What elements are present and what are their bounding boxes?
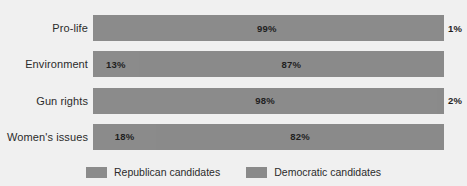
bar-segment-democratic[interactable]: 82% <box>156 124 444 150</box>
bar-segment-democratic[interactable]: 2% <box>437 88 444 114</box>
bar-segment-republican[interactable]: 18% <box>93 124 156 150</box>
category-label: Gun rights <box>0 95 88 107</box>
chart-row: Women's issues 18% 82% <box>0 119 467 155</box>
chart-row: Pro-life 99% 1% <box>0 10 467 46</box>
bar-value-democratic: 1% <box>448 23 462 34</box>
bar-value-democratic: 82% <box>290 131 310 142</box>
bar-segment-republican[interactable]: 99% <box>93 15 440 41</box>
legend-swatch-icon <box>246 167 267 178</box>
category-label: Pro-life <box>0 22 88 34</box>
stacked-bar-track: 13% 87% <box>93 51 444 77</box>
bar-value-democratic: 87% <box>281 59 301 70</box>
bar-segment-republican[interactable]: 98% <box>93 88 437 114</box>
bar-value-republican: 13% <box>106 59 126 70</box>
legend-item-democratic[interactable]: Democratic candidates <box>246 166 381 178</box>
bar-value-republican: 98% <box>255 95 275 106</box>
bar-segment-democratic[interactable]: 87% <box>139 51 444 77</box>
stacked-bar-track: 98% 2% <box>93 88 444 114</box>
bar-segment-democratic[interactable]: 1% <box>440 15 444 41</box>
chart-plot-area: Pro-life 99% 1% Environment 13% 87% <box>0 10 467 155</box>
chart-row: Gun rights 98% 2% <box>0 83 467 119</box>
bar-value-republican: 18% <box>115 131 135 142</box>
bar-value-democratic: 2% <box>448 95 462 106</box>
category-label: Environment <box>0 58 88 70</box>
chart-row: Environment 13% 87% <box>0 46 467 82</box>
bar-segment-republican[interactable]: 13% <box>93 51 139 77</box>
legend-label: Republican candidates <box>114 166 220 178</box>
chart-legend: Republican candidates Democratic candida… <box>0 166 467 178</box>
legend-label: Democratic candidates <box>274 166 381 178</box>
legend-item-republican[interactable]: Republican candidates <box>86 166 220 178</box>
category-label: Women's issues <box>0 131 88 143</box>
stacked-bar-track: 99% 1% <box>93 15 444 41</box>
bar-value-republican: 99% <box>257 23 277 34</box>
legend-swatch-icon <box>86 167 107 178</box>
stacked-bar-track: 18% 82% <box>93 124 444 150</box>
stacked-bar-chart: Pro-life 99% 1% Environment 13% 87% <box>0 0 467 186</box>
